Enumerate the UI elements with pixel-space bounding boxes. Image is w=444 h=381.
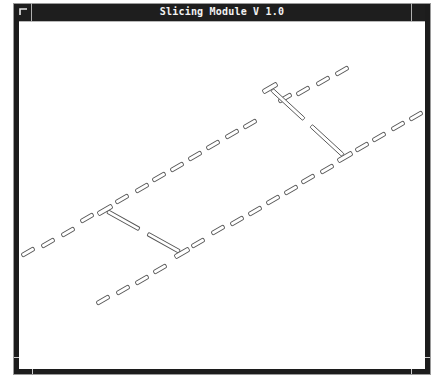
lower-rail-dash bbox=[135, 275, 149, 285]
upper-rail-dash bbox=[188, 151, 202, 161]
crossbar-2-lower-segment bbox=[310, 125, 344, 157]
lower-rail-dash bbox=[191, 238, 205, 248]
lower-rail-dash bbox=[230, 216, 244, 226]
resize-notch-bottom-right[interactable] bbox=[411, 369, 412, 374]
upper-rail-dash bbox=[170, 162, 184, 172]
titlebar-divider-left bbox=[31, 3, 32, 21]
upper-rail-dash bbox=[135, 183, 149, 193]
titlebar-divider-right bbox=[411, 3, 412, 21]
window-menu-icon bbox=[18, 6, 29, 17]
upper-rail-dash bbox=[41, 238, 55, 248]
upper-rail-dash bbox=[115, 194, 129, 204]
lower-rail-dash bbox=[372, 132, 386, 142]
upper-rail-dash bbox=[80, 213, 94, 223]
window-title: Slicing Module V 1.0 bbox=[14, 6, 430, 17]
resize-notch-left[interactable] bbox=[14, 357, 19, 358]
lower-rail-dash bbox=[301, 174, 315, 184]
window-menu-button[interactable] bbox=[18, 6, 29, 17]
drawing-canvas[interactable] bbox=[19, 22, 425, 369]
lower-rail-dash bbox=[153, 264, 167, 274]
resize-notch-right[interactable] bbox=[425, 357, 430, 358]
client-area-top-edge bbox=[19, 21, 425, 22]
window-border-left[interactable] bbox=[14, 4, 19, 374]
upper-rail-dash bbox=[335, 66, 349, 76]
crossbar-1-upper-segment bbox=[107, 210, 140, 231]
upper-rail-dash bbox=[206, 140, 220, 150]
lower-rail-dash bbox=[116, 285, 130, 295]
lower-rail-dash bbox=[391, 121, 405, 131]
lower-rail-dash bbox=[284, 185, 298, 195]
resize-notch-bottom-left[interactable] bbox=[32, 369, 33, 374]
lower-rail-dash bbox=[266, 195, 280, 205]
lower-rail-dash bbox=[320, 164, 334, 174]
lower-rail-dash bbox=[248, 206, 262, 216]
upper-rail-dash bbox=[21, 247, 35, 257]
upper-rail-dash bbox=[296, 86, 310, 96]
crossbar-1-lower-segment bbox=[147, 232, 180, 253]
window-border-right[interactable] bbox=[425, 4, 430, 374]
upper-rail-dash bbox=[243, 119, 257, 129]
upper-rail-dash bbox=[61, 227, 75, 237]
title-bar[interactable]: Slicing Module V 1.0 bbox=[14, 4, 430, 21]
lower-rail-dash bbox=[409, 111, 423, 121]
lower-rail-dash bbox=[211, 225, 225, 235]
upper-rail-dash bbox=[152, 172, 166, 182]
lower-rail-dash bbox=[355, 142, 369, 152]
wireframe-drawing bbox=[0, 0, 444, 381]
window-border-bottom[interactable] bbox=[14, 369, 430, 374]
upper-rail-dash bbox=[225, 129, 239, 139]
lower-rail-dash bbox=[96, 295, 110, 305]
upper-rail-dash bbox=[316, 76, 330, 86]
